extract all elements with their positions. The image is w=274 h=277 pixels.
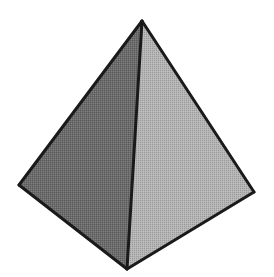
figure-canvas xyxy=(0,0,274,277)
tetrahedron-svg xyxy=(0,0,274,277)
